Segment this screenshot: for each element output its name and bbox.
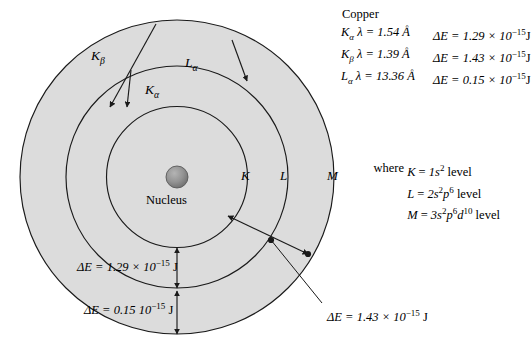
emission-line-energy: ΔE = 0.15 × 10−15J: [433, 68, 531, 90]
transition-label-l-alpha: Lα: [185, 55, 198, 73]
shell-config-text: K = 1s2 level: [404, 160, 472, 182]
leader-dot-inner: [268, 237, 274, 243]
nucleus-label: Nucleus: [146, 193, 187, 208]
emission-line-energy: ΔE = 1.29 × 10−15J: [433, 24, 531, 46]
shell-config-row: where K = 1s2 level: [366, 160, 500, 182]
shell-label-m: M: [327, 168, 338, 184]
leader-dot-outer: [305, 251, 311, 257]
energy-gap-label-k-to-l: ΔE = 1.29 × 10−15 J: [77, 258, 178, 275]
energy-gap-label-k-to-m: ΔE = 1.43 × 10−15 J: [327, 308, 428, 325]
emission-lines-block: Copper Kα λ = 1.54 Å ΔE = 1.29 × 10−15J …: [341, 6, 531, 90]
energy-gap-label-l-to-m: ΔE = 0.15 10−15 J: [84, 301, 173, 318]
element-title: Copper: [341, 6, 531, 24]
emission-line-row: Kβ λ = 1.39 Å ΔE = 1.43 × 10−15J: [341, 46, 531, 68]
emission-line-wavelength: Kα λ = 1.54 Å: [341, 24, 433, 46]
shell-config-row: M = 3s2p6d10 level: [366, 203, 500, 225]
where-label: where: [366, 160, 404, 182]
transition-label-k-beta: Kβ: [91, 48, 105, 66]
emission-line-wavelength: Lα λ = 13.36 Å: [341, 68, 433, 90]
shell-configuration-block: where K = 1s2 level L = 2s2p6 level M = …: [366, 160, 500, 225]
shell-label-k: K: [241, 168, 250, 184]
shell-config-text: M = 3s2p6d10 level: [404, 203, 500, 225]
shell-config-text: L = 2s2p6 level: [404, 182, 481, 204]
shell-label-l: L: [280, 168, 287, 184]
nucleus-sphere: [166, 166, 188, 188]
transition-label-k-alpha: Kα: [145, 82, 159, 100]
emission-line-row: Lα λ = 13.36 Å ΔE = 0.15 × 10−15J: [341, 68, 531, 90]
emission-line-row: Kα λ = 1.54 Å ΔE = 1.29 × 10−15J: [341, 24, 531, 46]
shell-config-row: L = 2s2p6 level: [366, 182, 500, 204]
emission-line-wavelength: Kβ λ = 1.39 Å: [341, 46, 433, 68]
emission-line-energy: ΔE = 1.43 × 10−15J: [433, 46, 531, 68]
